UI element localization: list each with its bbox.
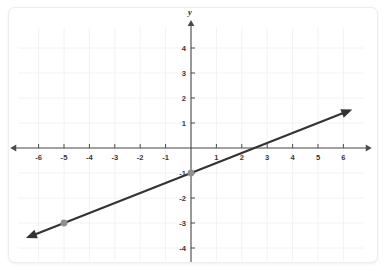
x-tick-label: 1 <box>214 153 219 162</box>
x-tick-label: 4 <box>290 153 295 162</box>
x-tick-label: 6 <box>341 153 345 162</box>
x-tick-label: -1 <box>162 153 170 162</box>
graph-card: -6-5-4-3-2-11234564321-1-2-3-4 x y <box>8 7 378 263</box>
x-tick-label: 3 <box>265 153 269 162</box>
y-tick-label: -2 <box>179 194 186 203</box>
y-axis-label: y <box>187 8 192 17</box>
plotted-point <box>61 220 68 227</box>
plotted-point <box>188 170 195 177</box>
x-tick-label: 5 <box>316 153 321 162</box>
line-arrow-lower-left-icon <box>26 230 38 239</box>
x-axis-arrow-left-icon <box>10 145 16 152</box>
y-tick-label: -3 <box>179 219 186 228</box>
coordinate-plane-plot: -6-5-4-3-2-11234564321-1-2-3-4 x y <box>9 8 377 262</box>
y-tick-label: 2 <box>182 94 186 103</box>
x-tick-label: -4 <box>86 153 94 162</box>
y-tick-label: -4 <box>179 244 187 253</box>
x-axis-arrow-right-icon <box>366 145 372 152</box>
x-tick-label: -6 <box>35 153 42 162</box>
y-tick-label: 3 <box>182 69 186 78</box>
line-arrow-upper-right-icon <box>340 109 352 118</box>
y-axis-arrow-up-icon <box>188 20 195 26</box>
x-tick-label: -3 <box>111 153 118 162</box>
x-tick-label: -2 <box>137 153 144 162</box>
x-tick-label: -5 <box>61 153 69 162</box>
